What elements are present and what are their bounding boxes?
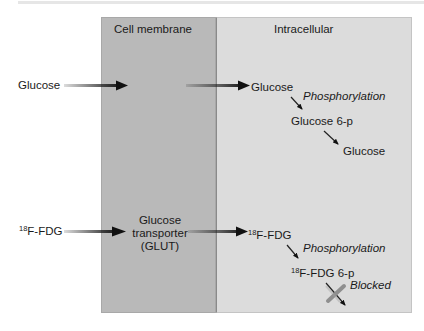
- blocked-x-icon: [326, 286, 344, 302]
- glucose-arrow-in: [64, 81, 128, 91]
- arrows-layer: [0, 0, 424, 331]
- fdg-arrow-in: [64, 227, 126, 237]
- glucose-arrow-transport: [186, 81, 250, 91]
- fdg-phosphorylation-arrow: [287, 245, 298, 258]
- glucose-phosphorylation-arrow: [291, 97, 302, 109]
- glucose-6p-arrow: [324, 131, 338, 144]
- fdg-arrow-transport: [188, 227, 248, 237]
